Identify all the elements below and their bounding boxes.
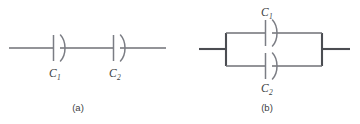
panel-b-caption: (b) <box>261 102 273 113</box>
panel-b-circuit: C 1 C 2 (b) <box>199 6 350 113</box>
capacitor-c2-parallel-label: C 2 <box>261 82 273 97</box>
capacitor-label-main: C <box>109 67 117 79</box>
panel-a-circuit: C 1 C 2 (a) <box>9 35 166 113</box>
capacitor-label-subscript: 2 <box>117 73 121 82</box>
capacitor-c1-parallel-label: C 1 <box>261 6 273 21</box>
capacitor-c1-series-label: C 1 <box>49 67 61 82</box>
figure-canvas: C 1 C 2 (a) <box>0 0 360 124</box>
capacitor-label-main: C <box>49 67 57 79</box>
capacitor-label-subscript: 2 <box>269 88 273 97</box>
panel-a-caption: (a) <box>72 102 84 113</box>
capacitor-label-subscript: 1 <box>269 12 273 21</box>
capacitor-label-subscript: 1 <box>57 73 61 82</box>
capacitor-c2-series-label: C 2 <box>109 67 121 82</box>
capacitor-label-main: C <box>261 6 269 18</box>
capacitor-label-main: C <box>261 82 269 94</box>
capacitor-circuits-figure: C 1 C 2 (a) <box>0 0 360 124</box>
